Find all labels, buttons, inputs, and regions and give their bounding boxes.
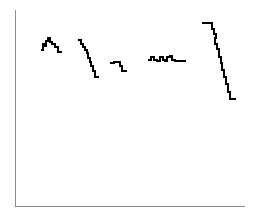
- step-plot-svg: [0, 0, 254, 217]
- chart-figure: [0, 0, 254, 217]
- plot-background: [0, 0, 254, 217]
